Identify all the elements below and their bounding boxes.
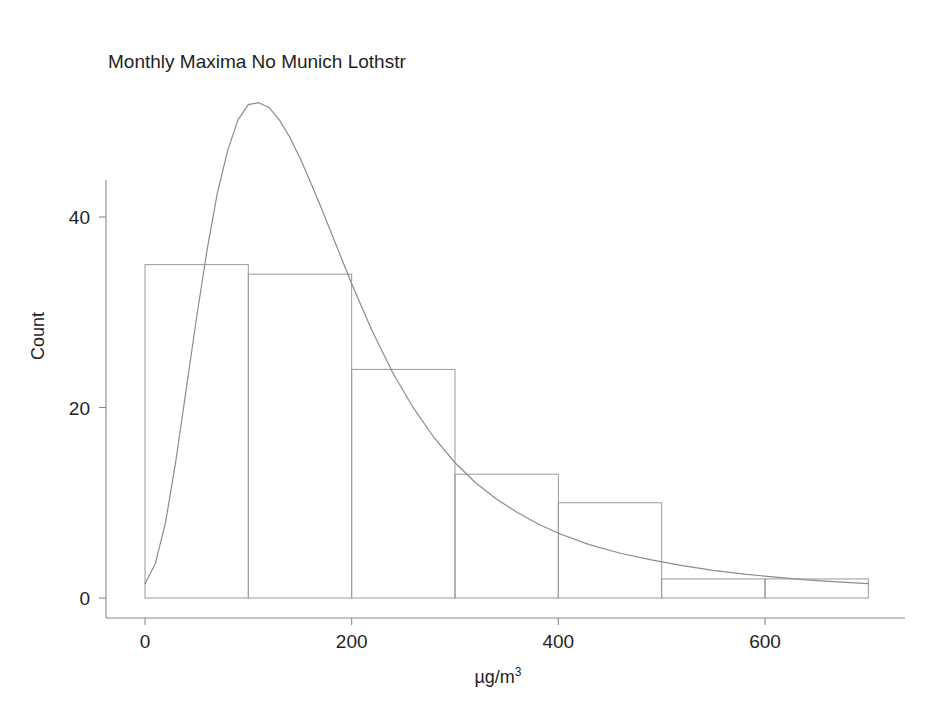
x-tick-label: 400 <box>542 631 574 652</box>
histogram-bar <box>455 474 558 598</box>
histogram-bar <box>662 579 765 598</box>
x-tick-label: 600 <box>749 631 781 652</box>
x-tick-label: 0 <box>140 631 151 652</box>
histogram-bar <box>352 369 455 598</box>
y-axis-ticks: 02040 <box>69 207 106 609</box>
histogram-bars <box>145 265 868 598</box>
y-axis-title: Count <box>28 312 48 360</box>
fitted-curve-group <box>145 103 868 584</box>
fitted-density-curve <box>145 103 868 584</box>
x-tick-label: 200 <box>336 631 368 652</box>
x-axis-ticks: 0200400600 <box>140 618 781 652</box>
x-axis: 0200400600 µg/m3 <box>106 618 905 687</box>
x-axis-title-exponent: 3 <box>515 665 522 679</box>
chart-canvas: Monthly Maxima No Munich Lothstr 0200400… <box>0 0 943 714</box>
y-tick-label: 20 <box>69 398 90 419</box>
histogram-bar <box>248 274 351 598</box>
x-axis-title-base: µg/m <box>474 667 514 687</box>
y-axis: 02040 Count <box>28 180 106 618</box>
y-tick-label: 40 <box>69 207 90 228</box>
histogram-figure: Monthly Maxima No Munich Lothstr 0200400… <box>0 0 943 714</box>
chart-title: Monthly Maxima No Munich Lothstr <box>108 51 406 72</box>
histogram-bar <box>765 579 868 598</box>
x-axis-title: µg/m3 <box>474 665 521 687</box>
chart-title-group: Monthly Maxima No Munich Lothstr <box>108 51 406 72</box>
y-tick-label: 0 <box>79 588 90 609</box>
